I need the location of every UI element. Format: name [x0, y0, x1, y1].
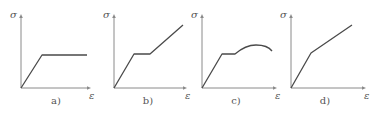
x-axis-label: ε [364, 90, 369, 101]
panel-label: d) [320, 95, 330, 106]
stress-strain-curve [291, 25, 352, 88]
y-axis-label: σ [10, 9, 18, 20]
panel-c: σεc) [191, 9, 280, 106]
panel-label: b) [143, 95, 153, 106]
y-axis-label: σ [191, 9, 199, 20]
x-axis-label: ε [275, 90, 280, 101]
stress-strain-curve [202, 45, 272, 88]
panel-label: a) [51, 95, 61, 106]
x-axis-label: ε [185, 90, 190, 101]
y-axis-arrow-icon [289, 14, 293, 18]
stress-strain-curve [21, 55, 87, 88]
x-axis-label: ε [89, 90, 94, 101]
panel-d: σεd) [280, 9, 369, 106]
y-axis-arrow-icon [200, 14, 204, 18]
y-axis-label: σ [103, 9, 111, 20]
panel-b: σεb) [103, 9, 190, 106]
stress-strain-curve [114, 25, 183, 88]
panel-a: σεa) [10, 9, 94, 106]
y-axis-arrow-icon [112, 14, 116, 18]
stress-strain-figure: σεa)σεb)σεc)σεd) [0, 0, 382, 113]
panel-label: c) [231, 95, 241, 106]
y-axis-arrow-icon [19, 14, 23, 18]
y-axis-label: σ [280, 9, 288, 20]
